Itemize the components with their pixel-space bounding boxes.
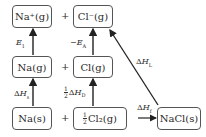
node-label: Na(s)	[18, 113, 46, 124]
node-nacl-solid: NaCl(s)	[157, 107, 201, 130]
node-label: Na(g)	[18, 62, 47, 73]
node-label: NaCl(s)	[160, 113, 199, 124]
node-cl-gas: Cl(g)	[73, 56, 113, 78]
plus-sign: +	[61, 112, 69, 123]
node-na-gas: Na(g)	[12, 56, 52, 78]
fraction-half: 1 2	[83, 112, 87, 125]
plus-sign: +	[61, 61, 69, 72]
label-lattice: ΔHL	[136, 57, 152, 68]
node-na-solid: Na(s)	[12, 107, 52, 130]
node-label: Cl₂(g)	[88, 113, 117, 124]
plus-sign: +	[61, 10, 69, 21]
label-electron-affinity: −EA	[70, 38, 86, 49]
node-cl2-gas: 1 2 Cl₂(g)	[73, 107, 127, 130]
label-ionization: E1	[16, 38, 25, 49]
node-cl-ion: Cl⁻(g)	[73, 5, 113, 28]
node-label: Cl⁻(g)	[78, 11, 108, 22]
node-na-ion: Na⁺(g)	[12, 5, 52, 28]
label-sublimation: ΔHs	[14, 89, 29, 100]
label-dissociation: 12ΔHD	[64, 86, 86, 99]
label-formation: ΔHf	[137, 103, 152, 114]
node-label: Na⁺(g)	[15, 11, 49, 22]
node-label: Cl(g)	[80, 62, 105, 73]
